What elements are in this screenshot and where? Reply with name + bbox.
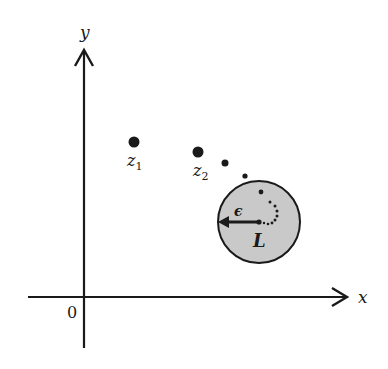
limit-point-L xyxy=(256,219,261,224)
point-z4 xyxy=(242,173,247,178)
point-inside-disk xyxy=(259,190,264,195)
limit-label-L: L xyxy=(252,230,266,251)
epsilon-neighborhood-disk: ϵ L xyxy=(218,181,300,263)
epsilon-label: ϵ xyxy=(234,203,243,219)
point-z1 xyxy=(129,137,140,148)
y-axis-label: y xyxy=(79,22,90,42)
point-z1-label: z1 xyxy=(126,151,142,173)
point-z3 xyxy=(222,160,229,167)
point-z2 xyxy=(193,147,204,158)
diagram-canvas: y x 0 z1 z2 xyxy=(0,0,388,369)
y-axis xyxy=(75,50,93,348)
point-z2-label: z2 xyxy=(192,161,208,183)
origin-label: 0 xyxy=(67,303,77,322)
x-axis-label: x xyxy=(358,287,368,307)
